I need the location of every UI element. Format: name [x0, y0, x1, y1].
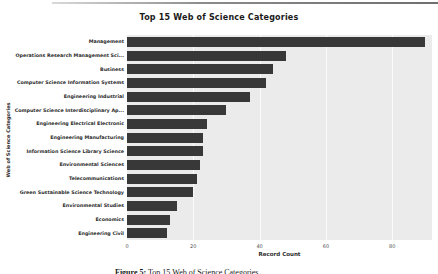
bar-row — [127, 117, 432, 131]
figure-caption-text: Top 15 Web of Science Categories — [146, 268, 258, 274]
category-label: Computer Science Interdisciplinary Ap... — [15, 108, 124, 113]
bar — [127, 215, 170, 225]
label-row: Management — [0, 35, 124, 49]
label-row: Operations Research Management Sci... — [0, 49, 124, 63]
bar — [127, 201, 177, 211]
x-tick-label: 20 — [190, 243, 196, 249]
bar — [127, 119, 207, 129]
category-label: Engineering Civil — [78, 231, 124, 236]
label-row: Business — [0, 62, 124, 76]
bar — [127, 146, 203, 156]
label-row: Engineering Civil — [0, 226, 124, 240]
bar-row — [127, 62, 432, 76]
bar — [127, 187, 193, 197]
bar — [127, 133, 203, 143]
label-row: Environmental Sciences — [0, 158, 124, 172]
x-axis-label: Record Count — [127, 251, 432, 257]
x-tick-label: 80 — [389, 243, 395, 249]
figure-caption-label: Figure 5: — [115, 268, 146, 274]
category-label: Operations Research Management Sci... — [15, 53, 124, 58]
x-tick-label: 40 — [256, 243, 262, 249]
bar — [127, 228, 167, 238]
label-row: Information Science Library Science — [0, 144, 124, 158]
category-label: Green Sustainable Science Technology — [20, 190, 124, 195]
category-label: Engineering Manufacturing — [50, 135, 124, 140]
bar-row — [127, 35, 432, 49]
page-divider-rule — [52, 2, 438, 4]
category-label: Engineering Electrical Electronic — [36, 121, 124, 126]
bar-row — [127, 90, 432, 104]
bar — [127, 37, 425, 47]
category-label: Business — [100, 67, 124, 72]
bar — [127, 105, 226, 115]
bar-row — [127, 172, 432, 186]
category-label: Computer Science Information Systems — [17, 80, 124, 85]
bar-row — [127, 158, 432, 172]
category-axis: ManagementOperations Research Management… — [0, 35, 124, 240]
bar — [127, 51, 286, 61]
bar-row — [127, 213, 432, 227]
label-row: Environmental Studies — [0, 199, 124, 213]
bar — [127, 78, 266, 88]
bar — [127, 160, 200, 170]
category-label: Information Science Library Science — [27, 149, 125, 154]
label-row: Telecommunications — [0, 172, 124, 186]
bar-row — [127, 144, 432, 158]
bar-row — [127, 185, 432, 199]
chart-title: Top 15 Web of Science Categories — [0, 13, 438, 22]
bar-row — [127, 49, 432, 63]
bar-row — [127, 199, 432, 213]
bar — [127, 174, 197, 184]
label-row: Engineering Electrical Electronic — [0, 117, 124, 131]
label-row: Green Sustainable Science Technology — [0, 185, 124, 199]
bar-series — [127, 35, 432, 240]
bar — [127, 92, 250, 102]
plot-area — [127, 35, 432, 240]
bar-row — [127, 103, 432, 117]
bar-row — [127, 226, 432, 240]
label-row: Computer Science Information Systems — [0, 76, 124, 90]
label-row: Engineering Industrial — [0, 90, 124, 104]
category-label: Economics — [96, 217, 124, 222]
bar — [127, 64, 273, 74]
category-label: Management — [89, 39, 124, 44]
document-page: Top 15 Web of Science Categories Web of … — [0, 0, 438, 274]
label-row: Engineering Manufacturing — [0, 131, 124, 145]
label-row: Computer Science Interdisciplinary Ap... — [0, 103, 124, 117]
category-label: Telecommunications — [69, 176, 124, 181]
bar-row — [127, 76, 432, 90]
category-label: Environmental Studies — [63, 203, 124, 208]
bar-row — [127, 131, 432, 145]
x-tick-label: 0 — [125, 243, 128, 249]
figure-caption: Figure 5: Top 15 Web of Science Categori… — [115, 268, 258, 274]
x-tick-label: 60 — [323, 243, 329, 249]
label-row: Economics — [0, 213, 124, 227]
category-label: Environmental Sciences — [59, 162, 124, 167]
category-label: Engineering Industrial — [64, 94, 124, 99]
x-axis-ticks: 020406080 — [127, 243, 432, 251]
